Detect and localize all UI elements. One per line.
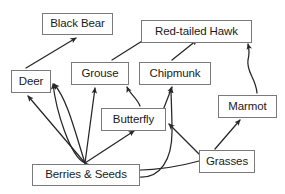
edge-berries-to-deer-right <box>54 84 85 163</box>
edge-berries-to-grouse <box>85 88 95 163</box>
edge-butterfly-to-grouse <box>127 87 140 106</box>
node-marmot[interactable]: Marmot <box>218 95 277 118</box>
node-label-deer: Deer <box>18 76 45 88</box>
edge-berries-to-butterfly <box>85 131 134 163</box>
node-grouse[interactable]: Grouse <box>71 62 129 85</box>
node-red-tailed-hawk[interactable]: Red-tailed Hawk <box>141 20 252 43</box>
node-label-chipmunk: Chipmunk <box>149 68 202 80</box>
edge-deer-to-black-bear <box>26 38 76 68</box>
edge-grasses-to-butterfly <box>169 124 200 155</box>
node-black-bear[interactable]: Black Bear <box>42 13 113 35</box>
node-label-grasses: Grasses <box>205 156 249 168</box>
node-label-butterfly: Butterfly <box>112 114 155 126</box>
node-label-grouse: Grouse <box>80 68 119 80</box>
node-butterfly[interactable]: Butterfly <box>101 108 166 131</box>
node-label-marmot: Marmot <box>227 101 267 113</box>
node-label-berries-and-seeds: Berries & Seeds <box>44 169 128 181</box>
edge-grasses-to-marmot <box>215 120 240 149</box>
node-berries-and-seeds[interactable]: Berries & Seeds <box>32 164 140 186</box>
node-chipmunk[interactable]: Chipmunk <box>139 62 211 85</box>
edge-marmot-to-hawk <box>248 44 257 93</box>
node-label-black-bear: Black Bear <box>49 18 106 30</box>
edge-berries-to-chipmunk <box>140 88 172 177</box>
node-label-red-tailed-hawk: Red-tailed Hawk <box>154 26 239 38</box>
edge-berries-to-deer-left <box>28 96 85 163</box>
food-web-diagram: Black Bear Red-tailed Hawk Deer Grouse C… <box>0 0 285 194</box>
node-grasses[interactable]: Grasses <box>199 150 255 173</box>
edge-chipmunk-to-hawk <box>172 40 197 60</box>
node-deer[interactable]: Deer <box>11 70 51 93</box>
